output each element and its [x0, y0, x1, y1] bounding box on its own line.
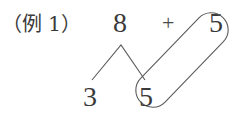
decomposition-diagram — [0, 0, 231, 119]
part-five: 5 — [139, 83, 153, 111]
part-three: 3 — [83, 83, 97, 111]
decomposition-branch — [92, 45, 145, 80]
